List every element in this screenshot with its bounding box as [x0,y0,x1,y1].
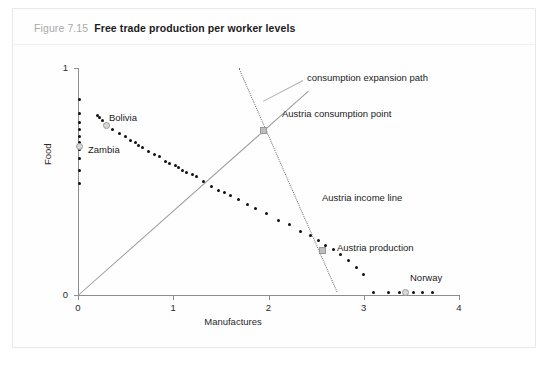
annotation-norway: Norway [410,272,442,283]
consumption-expansion-path-leader [263,80,303,102]
data-point [78,135,81,138]
y-tick-1 [74,68,79,69]
data-point [347,259,350,262]
data-point [431,291,434,294]
x-tick-2 [269,295,270,300]
annotation-consumption-expansion-path: consumption expansion path [307,72,428,83]
data-point [141,146,144,149]
annotation-austria-production: Austria production [337,242,414,253]
x-tick-label-4: 4 [444,302,474,313]
data-point [254,207,257,210]
y-tick-label-1: 1 [52,62,68,73]
data-point [217,189,220,192]
data-point [137,144,140,147]
data-point [191,173,194,176]
data-point [398,291,401,294]
x-tick-4 [459,295,460,300]
data-point [421,291,424,294]
data-point [288,223,291,226]
data-point [78,169,81,172]
x-tick-label-1: 1 [158,302,188,313]
highlight-marker-zambia [76,143,83,150]
data-point [147,150,150,153]
annotation-austria-consumption-point: Austria consumption point [282,108,391,119]
highlight-marker-austria-consumption-point [260,127,267,134]
data-point [181,169,184,172]
x-tick-label-2: 2 [254,302,284,313]
data-point [168,162,171,165]
data-point [332,248,335,251]
data-point [372,291,375,294]
data-point [195,175,198,178]
data-point [177,166,180,169]
x-tick-3 [364,295,365,300]
data-point [129,139,132,142]
annotation-austria-income-line: Austria income line [322,192,402,203]
annotation-zambia: Zambia [88,144,120,155]
data-point [185,171,188,174]
data-point [78,182,81,185]
data-point [174,164,177,167]
data-point [355,266,358,269]
data-point [317,239,320,242]
data-point [101,119,104,122]
data-point [299,230,302,233]
data-point [78,157,81,160]
x-tick-label-3: 3 [349,302,379,313]
x-tick-label-0: 0 [63,302,93,313]
data-point [164,160,167,163]
data-point [153,153,156,156]
data-point [78,121,81,124]
data-point [78,128,81,131]
data-point [387,291,390,294]
data-point [412,291,415,294]
data-point [158,155,161,158]
highlight-marker-bolivia [103,122,110,129]
data-point [78,112,81,115]
data-point [134,141,137,144]
data-point [111,128,114,131]
data-point [324,244,327,247]
x-axis-title-text: Manufactures [204,316,262,327]
data-point [339,253,342,256]
data-point [78,98,81,101]
data-point [265,212,268,215]
y-axis-title: Food [42,143,53,165]
highlight-marker-austria-production [319,247,326,254]
data-point [118,132,121,135]
data-point [210,185,213,188]
Austria-income-line-line [239,68,338,292]
annotation-bolivia: Bolivia [109,112,137,123]
y-tick-label-0: 0 [52,289,68,300]
x-axis-title: Manufactures [0,316,550,327]
data-point [362,273,365,276]
data-point [229,194,232,197]
scatter-plot: Manufactures Food 0123401 consumption ex… [0,0,550,365]
data-point [277,219,280,222]
data-point [124,135,127,138]
data-point [237,198,240,201]
x-tick-1 [173,295,174,300]
data-point [246,203,249,206]
data-point [223,191,226,194]
figure-page: Figure 7.15Free trade production per wor… [0,0,550,365]
